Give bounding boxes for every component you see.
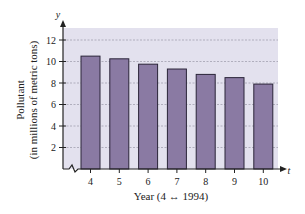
x-tick-label: 10	[258, 176, 268, 187]
x-axis-title: Year (4 ↔ 1994)	[134, 190, 209, 203]
x-axis-variable: t	[288, 165, 291, 176]
y-axis-variable: y	[55, 9, 61, 20]
bar-5	[110, 59, 129, 169]
bar-4	[81, 56, 100, 169]
y-tick-label: 4	[51, 121, 56, 132]
y-tick-label: 6	[51, 99, 56, 110]
bar-chart: 24681012 45678910 y t Year (4 ↔ 1994) Po…	[0, 0, 305, 214]
x-axis-arrow-icon	[280, 166, 287, 172]
y-axis-arrow-icon	[60, 20, 66, 27]
y-tick-label: 10	[46, 56, 56, 67]
bar-9	[225, 78, 244, 169]
y-tick-label: 2	[51, 142, 56, 153]
x-axis-ticks: 45678910	[88, 169, 268, 187]
x-tick-label: 5	[117, 176, 122, 187]
bar-6	[139, 64, 158, 169]
x-tick-label: 6	[146, 176, 151, 187]
y-axis-title-line1: Pollutant	[14, 80, 26, 120]
x-tick-label: 8	[203, 176, 208, 187]
bar-7	[167, 69, 186, 169]
x-tick-label: 9	[232, 176, 237, 187]
y-tick-label: 12	[46, 35, 56, 46]
x-tick-label: 4	[88, 176, 93, 187]
bar-10	[254, 84, 273, 169]
y-axis-title-line2: (in millions of metric tons)	[27, 40, 40, 159]
y-tick-label: 8	[51, 78, 56, 89]
bar-8	[196, 74, 215, 169]
y-axis-title: Pollutant (in millions of metric tons)	[14, 40, 40, 159]
x-tick-label: 7	[174, 176, 179, 187]
